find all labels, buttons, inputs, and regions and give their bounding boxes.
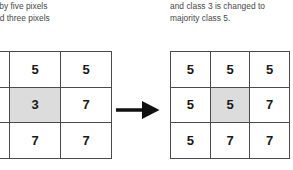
caption-right-line-2: majority class 5. <box>170 13 265 25</box>
grid-cell: 5 <box>61 52 112 88</box>
grid-cell: 7 <box>211 123 251 159</box>
grid-cell: 7 <box>250 88 290 124</box>
grid-cell: 5 <box>171 88 211 124</box>
grid-cell: 5 <box>0 88 10 124</box>
grid-cell: 7 <box>250 123 290 159</box>
pixel-grid-before: 5 5 5 5 3 7 5 7 7 <box>0 51 112 159</box>
caption-left: rounded by five pixels lass 5 and three … <box>0 1 50 36</box>
grid-cell: 5 <box>0 123 10 159</box>
caption-left-line-3: lass 7. <box>0 24 50 36</box>
caption-left-line-2: lass 5 and three pixels <box>0 13 50 25</box>
caption-right: and class 3 is changed to majority class… <box>170 1 265 24</box>
grid-cell: 7 <box>10 123 61 159</box>
grid-cell-center-highlighted: 5 <box>211 88 251 124</box>
right-arrow-icon <box>116 99 160 121</box>
grid-cell: 5 <box>0 52 10 88</box>
grid-cell-center-highlighted: 3 <box>10 88 61 124</box>
grid-cell: 5 <box>10 52 61 88</box>
caption-left-line-1: rounded by five pixels <box>0 1 50 13</box>
pixel-grid-after: 5 5 5 5 5 7 5 7 7 <box>170 51 290 159</box>
grid-cell: 5 <box>171 123 211 159</box>
grid-cell: 5 <box>250 52 290 88</box>
grid-cell: 5 <box>171 52 211 88</box>
grid-cell: 7 <box>61 123 112 159</box>
grid-cell: 5 <box>211 52 251 88</box>
caption-right-line-1: and class 3 is changed to <box>170 1 265 13</box>
grid-cell: 7 <box>61 88 112 124</box>
